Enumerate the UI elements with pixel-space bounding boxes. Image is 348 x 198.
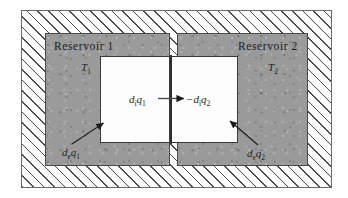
figure-canvas: Reservoir 1 Reservoir 2 T1 T2 diq1 −diq2… xyxy=(0,0,348,198)
temperature-subscript-1: 1 xyxy=(87,67,91,76)
temperature-label-2: T2 xyxy=(268,62,278,76)
internal-flux-q-sub-left: 1 xyxy=(142,99,146,108)
external-flux-label-2: deq2 xyxy=(247,148,265,162)
temperature-subscript-2: 2 xyxy=(274,67,278,76)
temperature-label-1: T1 xyxy=(81,62,91,76)
reservoir-2-title: Reservoir 2 xyxy=(238,41,298,53)
external-flux-q-sub-1: 1 xyxy=(76,152,80,161)
internal-flux-label-right: −diq2 xyxy=(186,94,210,108)
internal-flux-q-sub-right: 2 xyxy=(207,99,211,108)
internal-flux-label-left: diq1 xyxy=(129,94,146,108)
reservoir-1-title: Reservoir 1 xyxy=(54,41,114,53)
external-flux-q-sub-2: 2 xyxy=(261,153,265,162)
chamber-divider-line xyxy=(170,55,172,144)
external-flux-label-1: deq1 xyxy=(62,147,80,161)
